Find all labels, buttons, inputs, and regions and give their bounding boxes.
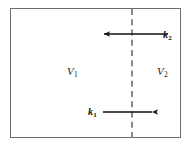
region-label-v1: V1 xyxy=(67,66,77,77)
vector-label-k1-subscript: 1 xyxy=(93,111,97,119)
vector-label-k2: k2 xyxy=(163,30,172,40)
region-label-v2-symbol: V xyxy=(157,65,164,77)
region-label-v1-subscript: 1 xyxy=(74,70,78,79)
vector-label-k1: k1 xyxy=(88,107,97,117)
region-label-v1-symbol: V xyxy=(67,65,74,77)
potential-step-diagram: V1 V2 k2 k1 xyxy=(0,0,191,149)
region-label-v2: V2 xyxy=(157,66,167,77)
vector-label-k2-subscript: 2 xyxy=(168,34,172,42)
region-label-v2-subscript: 2 xyxy=(164,70,168,79)
